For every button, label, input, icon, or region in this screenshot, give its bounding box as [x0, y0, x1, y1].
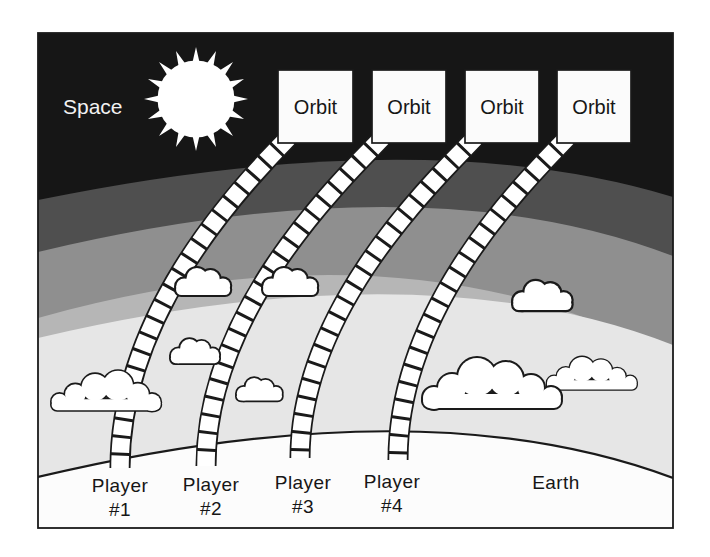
svg-text:#1: #1	[109, 499, 131, 520]
orbit-label-1: Orbit	[294, 96, 338, 118]
orbit-label-3: Orbit	[480, 96, 524, 118]
orbit-box-1: Orbit	[278, 70, 353, 143]
svg-text:Player: Player	[364, 471, 421, 492]
sun-icon	[144, 47, 248, 151]
svg-text:#4: #4	[381, 495, 403, 516]
svg-text:Player: Player	[92, 475, 149, 496]
space-label: Space	[63, 95, 123, 118]
earth-label: Earth	[532, 472, 579, 493]
space-elevator-diagram: Space	[0, 0, 710, 557]
orbit-label-4: Orbit	[572, 96, 616, 118]
svg-text:Player: Player	[275, 472, 332, 493]
svg-text:Player: Player	[183, 474, 240, 495]
svg-text:#2: #2	[200, 498, 222, 519]
orbit-box-2: Orbit	[372, 70, 446, 143]
orbit-label-2: Orbit	[387, 96, 431, 118]
orbit-box-3: Orbit	[465, 70, 539, 143]
orbit-box-4: Orbit	[557, 70, 631, 143]
svg-text:#3: #3	[292, 496, 314, 517]
